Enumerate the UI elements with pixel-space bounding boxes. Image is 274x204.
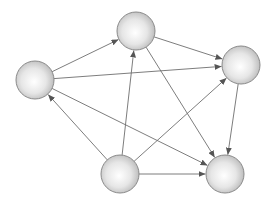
edge-a-to-b <box>52 40 118 72</box>
edge-a-to-e <box>52 88 208 165</box>
edge-d-to-c <box>134 78 226 161</box>
edge-d-to-a <box>48 95 107 160</box>
node-d <box>101 155 139 193</box>
edges-layer <box>48 37 238 174</box>
node-c <box>222 46 260 84</box>
node-a <box>16 61 54 99</box>
node-b <box>117 12 155 50</box>
edge-a-to-c <box>54 66 222 78</box>
directed-graph-diagram <box>0 0 274 204</box>
node-e <box>206 155 244 193</box>
edge-d-to-b <box>122 50 134 155</box>
edge-b-to-c <box>154 37 222 59</box>
nodes-layer <box>16 12 260 193</box>
edge-c-to-e <box>228 84 238 155</box>
